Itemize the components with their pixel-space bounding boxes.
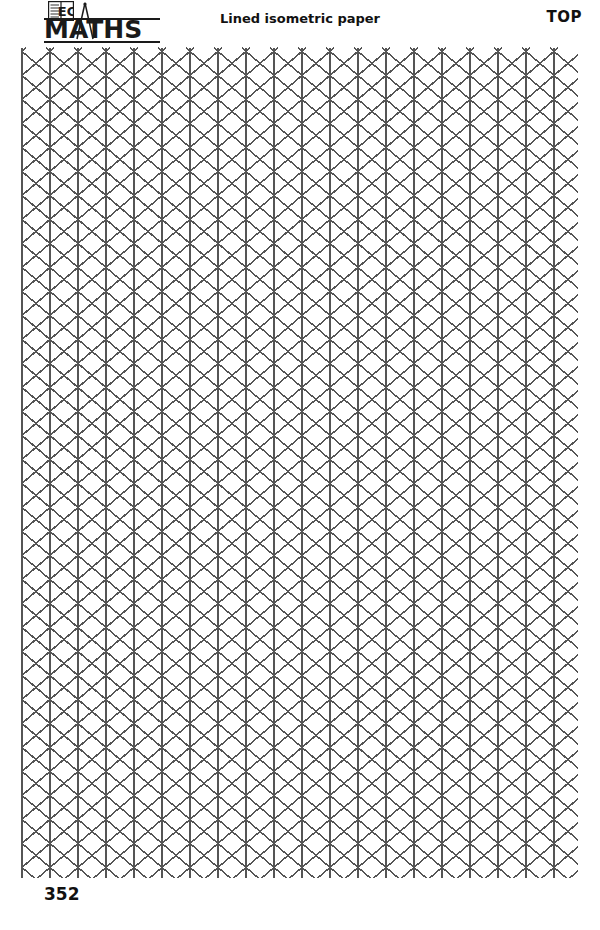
paper-page: EC MATHS Lined isometric paper TOP 352 <box>0 0 600 930</box>
isometric-grid-svg <box>0 0 600 930</box>
isometric-grid <box>0 0 600 930</box>
page-footer: 352 <box>0 884 600 914</box>
page-number: 352 <box>44 884 80 904</box>
grid-line-group <box>22 48 578 878</box>
